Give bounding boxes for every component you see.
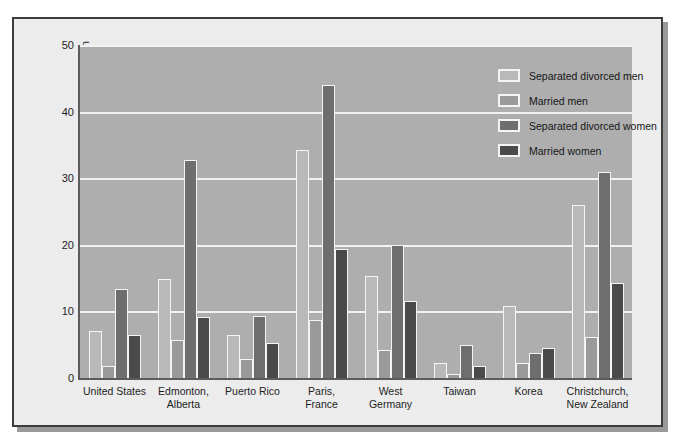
bar <box>503 306 516 378</box>
x-tick-label: Taiwan <box>425 385 494 425</box>
x-tick-label: Puerto Rico <box>218 385 287 425</box>
bar <box>473 366 486 378</box>
y-tick-label-20: 20 <box>18 239 74 250</box>
bar <box>184 160 197 378</box>
bar <box>102 366 115 378</box>
bar <box>542 348 555 378</box>
legend-swatch <box>498 69 520 82</box>
bar <box>240 359 253 378</box>
bar <box>516 363 529 378</box>
bar <box>598 172 611 378</box>
bar-group <box>356 45 425 378</box>
bar <box>447 374 460 378</box>
legend-item: Married men <box>498 94 657 107</box>
bar <box>585 337 598 378</box>
bar <box>391 245 404 378</box>
bar-group <box>80 45 149 378</box>
y-tick-label-50: 50 <box>18 40 74 51</box>
bar <box>171 340 184 378</box>
bar-group <box>218 45 287 378</box>
legend-item: Separated divorced men <box>498 69 657 82</box>
figure-frame: Lifetime rate of major depression per 10… <box>12 17 663 427</box>
x-tick-label: Edmonton,Alberta <box>149 385 218 425</box>
bar-group <box>149 45 218 378</box>
bar <box>365 276 378 378</box>
bar <box>89 331 102 378</box>
legend-item: Married women <box>498 144 657 157</box>
bar <box>309 320 322 378</box>
legend-label: Separated divorced women <box>529 120 657 132</box>
bar <box>158 279 171 378</box>
bar <box>197 317 210 378</box>
bar <box>296 150 309 378</box>
bar <box>253 316 266 378</box>
bar <box>227 335 240 378</box>
bar <box>529 353 542 378</box>
legend-label: Married men <box>529 95 588 107</box>
chart-figure: Lifetime rate of major depression per 10… <box>0 0 677 445</box>
x-tick-label: Christchurch,New Zealand <box>563 385 632 425</box>
bar <box>266 343 279 378</box>
y-tick-label-40: 40 <box>18 106 74 117</box>
legend-swatch <box>498 119 520 132</box>
bar <box>115 289 128 378</box>
legend-label: Separated divorced men <box>529 70 643 82</box>
bar <box>128 335 141 378</box>
x-tick-label: Paris,France <box>287 385 356 425</box>
y-axis-ticks: 01020304050 <box>14 45 74 378</box>
y-tick-label-0: 0 <box>18 373 74 384</box>
x-tick-label: United States <box>80 385 149 425</box>
bar <box>572 205 585 378</box>
bar-group <box>287 45 356 378</box>
bar <box>322 85 335 378</box>
bar <box>404 301 417 378</box>
x-tick-label: Korea <box>494 385 563 425</box>
chart-legend: Separated divorced menMarried menSeparat… <box>498 69 657 169</box>
legend-swatch <box>498 94 520 107</box>
bar <box>378 350 391 378</box>
legend-swatch <box>498 144 520 157</box>
bar-group <box>425 45 494 378</box>
bar <box>434 363 447 378</box>
y-tick-label-30: 30 <box>18 173 74 184</box>
y-tick-label-10: 10 <box>18 306 74 317</box>
x-tick-label: West Germany <box>356 385 425 425</box>
x-axis-labels: United StatesEdmonton,AlbertaPuerto Rico… <box>80 385 632 425</box>
legend-label: Married women <box>529 145 601 157</box>
bar <box>460 345 473 378</box>
legend-item: Separated divorced women <box>498 119 657 132</box>
bar <box>335 249 348 378</box>
x-axis-line <box>80 378 632 380</box>
bar <box>611 283 624 378</box>
